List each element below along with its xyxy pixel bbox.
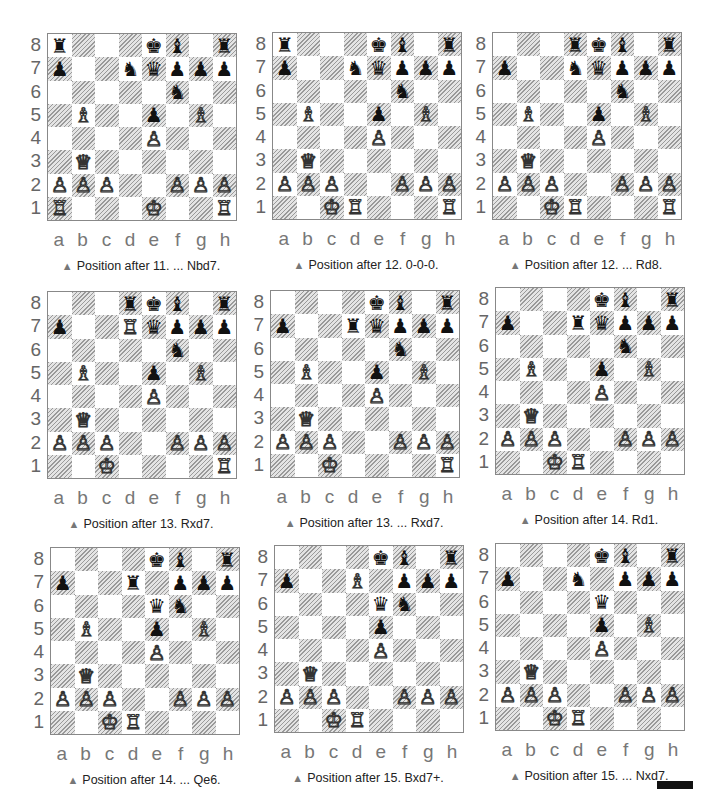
square-g8 xyxy=(416,546,440,569)
triangle-marker-icon: ▲ xyxy=(292,772,303,784)
white-pawn-icon: ♙ xyxy=(438,432,456,452)
square-g6 xyxy=(637,591,661,614)
square-d1: ♖ xyxy=(346,709,370,732)
square-f6: ♞ xyxy=(166,81,190,104)
square-f4 xyxy=(611,126,635,149)
square-h8: ♜ xyxy=(661,288,685,311)
white-pawn-icon: ♙ xyxy=(616,685,634,705)
black-rook-icon: ♜ xyxy=(215,294,233,314)
file-label: c xyxy=(95,487,119,509)
square-g8 xyxy=(634,33,658,56)
caption-text: Position after 13. ... Rxd7. xyxy=(300,516,444,530)
square-f3 xyxy=(389,407,413,430)
square-d3 xyxy=(119,408,143,431)
square-c1: ♔ xyxy=(543,707,567,730)
square-f2: ♙ xyxy=(166,432,190,455)
square-f8: ♝ xyxy=(169,548,193,571)
caption-text: Position after 14. ... Qe6. xyxy=(82,773,220,787)
square-b1 xyxy=(517,196,541,219)
diagram-caption: ▲Position after 15. Bxd7+. xyxy=(248,771,488,785)
square-c6 xyxy=(95,81,119,104)
chess-diagram: 87654321♜♚♝♜♟♞♛♟♟♟♞♗♟♗♙♕♙♙♙♙♙♙♖♔♖abcdefg… xyxy=(21,33,251,283)
rank-label: 7 xyxy=(24,570,44,593)
white-pawn-icon: ♙ xyxy=(499,429,517,449)
caption-text: Position after 12. ... Rd8. xyxy=(525,258,663,272)
square-e2 xyxy=(590,428,614,451)
rank-label: 6 xyxy=(21,80,41,103)
square-f8: ♝ xyxy=(166,34,190,57)
square-b1 xyxy=(297,196,321,219)
square-b5: ♗ xyxy=(297,103,321,126)
square-g3 xyxy=(634,149,658,172)
square-e6 xyxy=(142,81,166,104)
square-g2: ♙ xyxy=(412,431,436,454)
square-g7: ♟ xyxy=(416,569,440,592)
white-pawn-icon: ♙ xyxy=(325,687,343,707)
square-e8: ♚ xyxy=(142,34,166,57)
square-c1: ♔ xyxy=(98,711,122,734)
white-pawn-icon: ♙ xyxy=(51,433,69,453)
file-label: g xyxy=(190,229,214,251)
white-queen-icon: ♕ xyxy=(297,409,315,429)
rank-label: 3 xyxy=(21,407,41,430)
square-b8 xyxy=(295,291,319,314)
file-label: g xyxy=(638,739,662,761)
square-h4 xyxy=(661,637,685,660)
square-g1 xyxy=(637,451,661,474)
black-pawn-icon: ♟ xyxy=(391,316,409,336)
square-a3 xyxy=(496,660,520,683)
square-c6 xyxy=(95,339,119,362)
square-g3 xyxy=(189,150,213,173)
square-g7: ♟ xyxy=(192,571,216,594)
square-d1: ♖ xyxy=(344,196,368,219)
square-c2: ♙ xyxy=(98,688,122,711)
square-d2 xyxy=(567,684,591,707)
rank-label: 5 xyxy=(21,103,41,126)
square-h5 xyxy=(658,103,682,126)
square-h8: ♜ xyxy=(438,33,462,56)
square-b1 xyxy=(299,709,323,732)
square-e6 xyxy=(587,80,611,103)
square-d8 xyxy=(122,548,146,571)
black-pawn-icon: ♟ xyxy=(442,571,460,591)
square-h5 xyxy=(661,358,685,381)
square-a3 xyxy=(493,149,517,172)
square-b1 xyxy=(295,454,319,477)
square-f3 xyxy=(614,660,638,683)
square-g6 xyxy=(634,80,658,103)
square-d7: ♜ xyxy=(122,571,146,594)
white-bishop-icon: ♗ xyxy=(192,363,210,383)
file-label: g xyxy=(193,743,217,765)
file-label: e xyxy=(590,483,614,505)
white-rook-icon: ♖ xyxy=(215,198,233,218)
file-label: c xyxy=(540,228,564,250)
square-f6 xyxy=(614,591,638,614)
rank-label: 2 xyxy=(24,687,44,710)
black-knight-icon: ♞ xyxy=(613,81,631,101)
square-f4 xyxy=(393,639,417,662)
file-label: e xyxy=(369,741,393,763)
square-h2: ♙ xyxy=(661,428,685,451)
square-f2: ♙ xyxy=(389,431,413,454)
square-h8: ♜ xyxy=(661,544,685,567)
square-e8: ♚ xyxy=(587,33,611,56)
square-b7 xyxy=(297,56,321,79)
square-b5: ♗ xyxy=(75,618,99,641)
square-b7 xyxy=(72,57,96,80)
file-label: d xyxy=(345,741,369,763)
black-pawn-icon: ♟ xyxy=(372,617,390,637)
square-b5: ♗ xyxy=(517,103,541,126)
square-e3 xyxy=(367,149,391,172)
square-e8: ♚ xyxy=(590,544,614,567)
square-f1 xyxy=(393,709,417,732)
black-pawn-icon: ♟ xyxy=(616,313,634,333)
square-c1: ♔ xyxy=(318,454,342,477)
black-pawn-icon: ♟ xyxy=(145,363,163,383)
square-e7: ♛ xyxy=(587,56,611,79)
square-e1 xyxy=(590,451,614,474)
black-pawn-icon: ♟ xyxy=(370,104,388,124)
file-labels: abcdefgh xyxy=(47,229,237,251)
square-a1 xyxy=(51,711,75,734)
white-pawn-icon: ♙ xyxy=(278,687,296,707)
square-a8: ♜ xyxy=(48,34,72,57)
